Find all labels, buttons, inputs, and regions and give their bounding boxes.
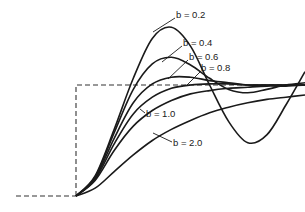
label-b06: b = 0.6 <box>189 51 218 62</box>
label-b08: b = 0.8 <box>201 62 230 73</box>
label-b10: b = 1.0 <box>146 108 175 119</box>
label-b02: b = 0.2 <box>176 9 205 20</box>
leader-b10 <box>140 109 145 113</box>
label-b04: b = 0.4 <box>183 37 212 48</box>
step-response-chart: b = 0.2 b = 0.4 b = 0.6 b = 0.8 b = 1.0 … <box>0 0 305 212</box>
label-b20: b = 2.0 <box>173 137 202 148</box>
leader-b02 <box>153 18 175 32</box>
